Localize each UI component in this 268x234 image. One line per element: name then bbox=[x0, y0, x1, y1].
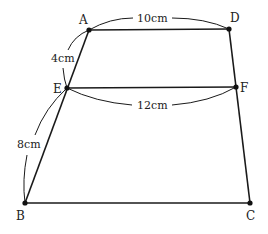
label-B: B bbox=[16, 209, 25, 223]
arc-EB-bottom bbox=[24, 155, 27, 203]
arc-EF-left bbox=[67, 88, 132, 105]
arc-AE-bottom bbox=[63, 68, 67, 88]
point-C bbox=[247, 200, 252, 205]
measure-EF: 12cm bbox=[137, 99, 168, 112]
label-D: D bbox=[230, 11, 240, 25]
arc-AD bbox=[89, 18, 133, 30]
point-E bbox=[64, 85, 69, 90]
measure-AE: 4cm bbox=[51, 52, 75, 65]
point-D bbox=[226, 26, 231, 31]
label-E: E bbox=[53, 82, 62, 96]
segment-EF bbox=[67, 87, 236, 88]
label-A: A bbox=[78, 13, 88, 27]
label-C: C bbox=[246, 209, 255, 223]
arc-AD-right bbox=[172, 18, 229, 29]
point-F bbox=[233, 84, 238, 89]
segment-AD bbox=[89, 29, 229, 30]
measure-EB: 8cm bbox=[17, 138, 41, 151]
segment-DC bbox=[229, 29, 250, 203]
point-B bbox=[22, 200, 27, 205]
label-F: F bbox=[240, 81, 248, 95]
arc-EB-top bbox=[35, 88, 67, 135]
point-A bbox=[86, 27, 91, 32]
arc-EF-right bbox=[172, 87, 236, 105]
trapezoid-diagram: A D E F B C 10cm 4cm 12cm 8cm bbox=[0, 0, 268, 234]
measure-AD: 10cm bbox=[137, 12, 168, 25]
